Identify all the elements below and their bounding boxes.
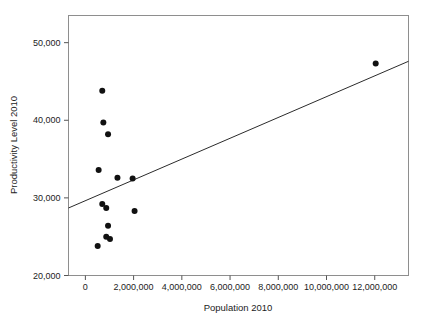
x-tick-label: 10,000,000 [304, 282, 349, 292]
data-point [105, 223, 111, 229]
y-tick-label: 20,000 [33, 271, 61, 281]
y-tick-label: 50,000 [33, 38, 61, 48]
x-tick-label: 6,000,000 [210, 282, 250, 292]
y-axis-title: Productivity Level 2010 [8, 96, 19, 194]
y-tick-group [64, 43, 69, 276]
data-point [100, 120, 106, 126]
chart-canvas: 20,00030,00040,00050,000 02,000,0004,000… [0, 0, 431, 331]
data-point [103, 205, 109, 211]
data-point [105, 131, 111, 137]
x-tick-group [85, 276, 374, 281]
data-point [373, 61, 379, 67]
y-tick-label: 40,000 [33, 115, 61, 125]
data-point [114, 175, 120, 181]
x-axis-title: Population 2010 [204, 302, 273, 313]
data-point [107, 236, 113, 242]
data-point [95, 243, 101, 249]
x-tick-label: 4,000,000 [162, 282, 202, 292]
regression-fit-line [69, 61, 409, 208]
y-tick-label-group: 20,00030,00040,00050,000 [33, 38, 61, 281]
x-tick-label: 8,000,000 [258, 282, 298, 292]
y-tick-label: 30,000 [33, 193, 61, 203]
x-tick-label-group: 02,000,0004,000,0006,000,0008,000,00010,… [83, 282, 397, 292]
scatter-plot-figure: 20,00030,00040,00050,000 02,000,0004,000… [0, 0, 431, 331]
data-point [132, 208, 138, 214]
x-tick-label: 12,000,000 [352, 282, 397, 292]
x-tick-label: 0 [83, 282, 88, 292]
data-point [130, 175, 136, 181]
data-point [96, 167, 102, 173]
data-point [99, 88, 105, 94]
x-tick-label: 2,000,000 [114, 282, 154, 292]
x-axis: 02,000,0004,000,0006,000,0008,000,00010,… [83, 276, 397, 293]
y-axis: 20,00030,00040,00050,000 [33, 38, 69, 281]
data-point-group [95, 61, 379, 249]
plot-frame [69, 16, 409, 276]
